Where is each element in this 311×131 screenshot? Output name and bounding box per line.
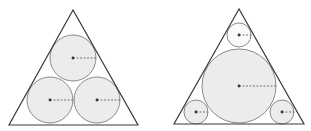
diagram-incircle-with-corner-circles xyxy=(174,9,304,124)
center-point-2 xyxy=(96,99,99,102)
center-point-0 xyxy=(238,34,241,37)
triangle-circle-packing-diagram xyxy=(0,0,311,131)
center-point-1 xyxy=(49,99,52,102)
center-point-1 xyxy=(238,85,241,88)
diagram-three-equal-circles xyxy=(9,10,138,125)
center-point-2 xyxy=(195,111,198,114)
center-point-3 xyxy=(281,111,284,114)
center-point-0 xyxy=(72,57,75,60)
